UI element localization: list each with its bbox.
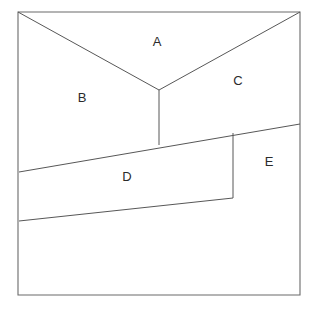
square-border	[18, 12, 300, 295]
region-label-e: E	[265, 154, 274, 169]
region-label-b: B	[78, 90, 87, 105]
partition-diagram: ABCDE	[0, 0, 315, 314]
region-label-d: D	[122, 169, 131, 184]
figure-container: ABCDE	[0, 0, 315, 314]
region-label-c: C	[233, 73, 242, 88]
region-label-a: A	[153, 34, 162, 49]
